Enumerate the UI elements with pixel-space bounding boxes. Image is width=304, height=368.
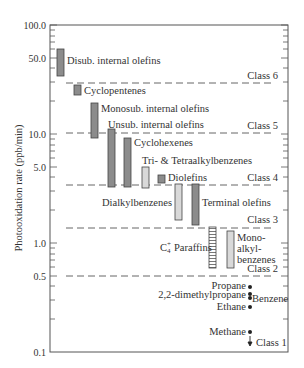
bar-cyclohexenes: [124, 138, 131, 187]
label-monosub: Monosub. internal olefins: [101, 103, 209, 114]
bar-unsub-internal-olefins: [108, 129, 115, 187]
svg-text:Paraffins: Paraffins: [174, 242, 212, 253]
bar-dialkylbenzenes: [175, 184, 182, 220]
label-dimethylpropane: 2,2-dimethylpropane: [158, 289, 246, 300]
bar-terminal-olefins: [192, 184, 199, 225]
class6-label: Class 6: [247, 70, 278, 81]
label-mono-line1: Mono-: [237, 232, 266, 243]
class1-label: Class 1: [256, 337, 287, 348]
label-dialkylbenzenes: Dialkylbenzenes: [102, 197, 172, 208]
svg-text:C: C: [160, 242, 167, 253]
ytick-1: 1.0: [34, 238, 47, 249]
label-mono-line2: alkyl-: [237, 243, 262, 254]
point-propane: [248, 285, 252, 289]
ytick-10: 10.0: [29, 129, 47, 140]
down-arrow-icon: [248, 336, 252, 346]
point-methane: [248, 330, 252, 334]
ytick-0.5: 0.5: [34, 271, 47, 282]
bar-monoalkylbenzenes: [227, 231, 234, 268]
y-axis-label: Photooxidation rate (ppb/min): [13, 124, 25, 252]
label-c4-paraffins: C + 4 Paraffins: [160, 240, 212, 255]
bar-diolefins: [158, 175, 165, 183]
photooxidation-chart: 100.0 50.0 10.0 5.0 1.0 0.5 0.1 Photooxi…: [0, 0, 304, 368]
left-axis-ticks: [50, 25, 57, 319]
ytick-50: 50.0: [29, 53, 47, 64]
label-diolefins: Diolefins: [168, 172, 207, 183]
label-unsub: Unsub. internal olefins: [108, 119, 204, 130]
label-mono-line3: benzenes: [237, 254, 275, 265]
label-cyclohexenes: Cyclohexenes: [134, 137, 193, 148]
class5-label: Class 5: [247, 120, 278, 131]
class3-label: Class 3: [247, 214, 278, 225]
label-terminal-olefins: Terminal olefins: [202, 197, 271, 208]
svg-text:4: 4: [167, 247, 171, 255]
ytick-0.1: 0.1: [34, 347, 47, 358]
right-axis-ticks: [281, 25, 288, 319]
bar-tri-tetraalkylbenzenes: [142, 167, 149, 188]
ytick-5: 5.0: [34, 162, 47, 173]
bar-cyclopentenes: [74, 85, 81, 95]
bar-monosub-internal-olefins: [91, 103, 98, 138]
bar-disub-internal-olefins: [57, 49, 64, 76]
ytick-100: 100.0: [24, 20, 47, 31]
class4-label: Class 4: [247, 172, 278, 183]
label-ethane: Ethane: [217, 301, 246, 312]
label-cyclopentenes: Cyclopentenes: [84, 85, 146, 96]
label-tritetra: Tri- & Tetraalkylbenzenes: [142, 155, 252, 166]
point-ethane: [248, 305, 252, 309]
label-disub: Disub. internal olefins: [67, 55, 161, 66]
label-methane: Methane: [209, 326, 246, 337]
label-benzene: Benzene: [252, 293, 288, 304]
